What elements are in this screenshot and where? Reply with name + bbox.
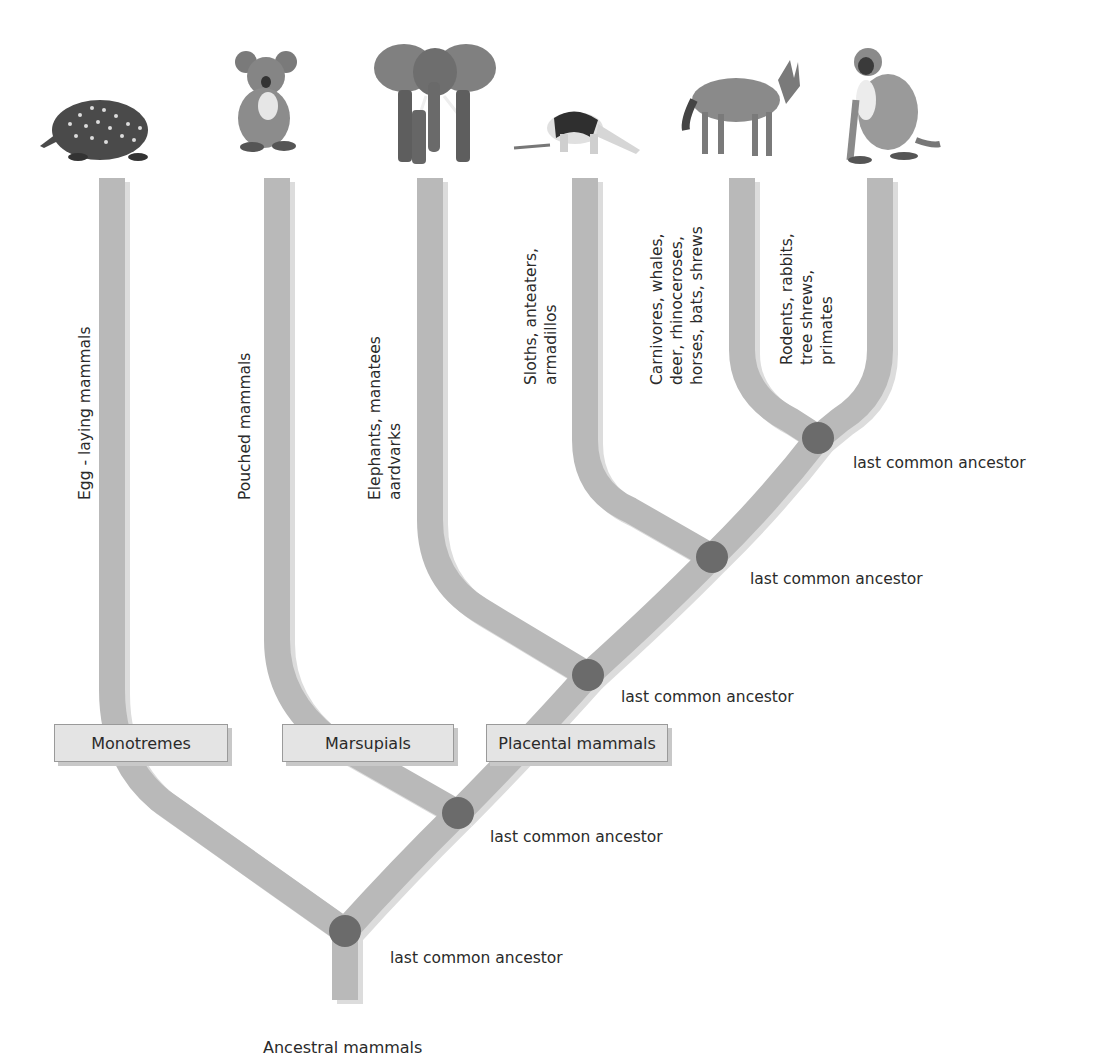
svg-text:Sloths, anteaters, arm: Sloths, anteaters, armadillos	[522, 243, 560, 385]
group-label: Monotremes	[91, 734, 191, 753]
lineage-label-pouched: Pouched mammals	[236, 353, 254, 500]
svg-text:Carnivores, whales, de: Carnivores, whales, deer, rhinoceroses, …	[648, 226, 706, 385]
echidna-icon	[40, 100, 148, 161]
ancestor-label-5: last common ancestor	[853, 454, 1026, 472]
ancestor-label-4: last common ancestor	[750, 570, 923, 588]
tree-canvas: Egg - laying mammals Pouched mammals Ele…	[0, 0, 1093, 1064]
phylogenetic-tree-diagram: Egg - laying mammals Pouched mammals Ele…	[0, 0, 1093, 1064]
group-label: Marsupials	[325, 734, 411, 753]
ancestor-label-1: last common ancestor	[390, 949, 563, 967]
group-placental-mammals: Placental mammals	[486, 724, 668, 762]
branch-boreo-xen	[588, 557, 712, 675]
svg-text:Egg - laying mammals: Egg - laying mammals	[76, 327, 94, 500]
svg-text:Pouched mammals: Pouched mammals	[236, 353, 254, 500]
koala-icon	[235, 51, 297, 152]
branch-therian	[345, 813, 458, 931]
group-label: Placental mammals	[498, 734, 655, 753]
branch-elephants	[430, 178, 588, 675]
svg-text:Rodents, rabbits, tree: Rodents, rabbits, tree shrews, primates	[778, 228, 836, 365]
node-4	[696, 541, 728, 573]
node-2	[442, 797, 474, 829]
root-label: Ancestral mammals	[263, 1038, 422, 1057]
branches	[112, 178, 880, 1000]
anteater-icon	[514, 111, 640, 154]
lineage-label-sloths: Sloths, anteaters, armadillos	[522, 243, 560, 385]
elephant-icon	[374, 44, 496, 164]
node-3	[572, 659, 604, 691]
group-monotremes: Monotremes	[54, 724, 228, 762]
lineage-label-egg: Egg - laying mammals	[76, 327, 94, 500]
group-marsupials: Marsupials	[282, 724, 454, 762]
branch-egg-laying	[112, 178, 345, 931]
branch-shadows	[117, 182, 885, 1004]
ancestor-label-2: last common ancestor	[490, 828, 663, 846]
ancestor-label-3: last common ancestor	[621, 688, 794, 706]
svg-text:Elephants, manatees aa: Elephants, manatees aardvarks	[366, 331, 404, 500]
node-5	[802, 422, 834, 454]
monkey-icon	[848, 48, 940, 164]
lineage-label-carnivores: Carnivores, whales, deer, rhinoceroses, …	[648, 226, 706, 385]
node-1	[329, 915, 361, 947]
lineage-label-elephants: Elephants, manatees aardvarks	[366, 331, 404, 500]
wolf-icon	[686, 60, 800, 156]
lineage-label-rodents: Rodents, rabbits, tree shrews, primates	[778, 228, 836, 365]
branch-boreoeutheria	[712, 438, 818, 557]
